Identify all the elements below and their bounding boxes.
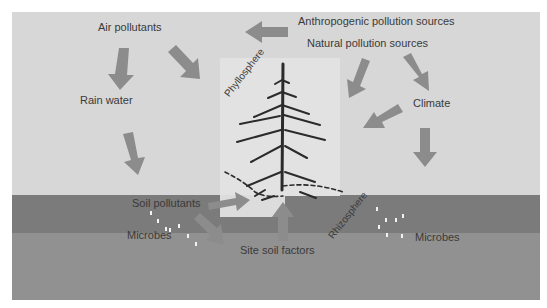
label-microbes-left: Microbes (127, 229, 172, 241)
arrow-climate-to-tree-icon (363, 104, 403, 128)
label-site-soil-factors: Site soil factors (240, 244, 315, 256)
tree-sketch-icon (225, 64, 343, 200)
label-natural-sources: Natural pollution sources (307, 37, 428, 49)
label-microbes-right: Microbes (415, 231, 460, 243)
label-anthropogenic-sources: Anthropogenic pollution sources (298, 15, 455, 27)
arrow-natural-to-tree-icon (347, 58, 370, 98)
arrow-soil-to-subsoil-icon (194, 213, 224, 245)
label-soil-pollutants: Soil pollutants (132, 197, 201, 209)
arrow-site-soil-up-icon (272, 202, 294, 241)
arrow-rain-to-soil-icon (123, 132, 145, 175)
arrow-natural-to-climate-icon (403, 53, 429, 91)
arrow-anthropogenic-icon (245, 21, 288, 43)
arrow-air-to-tree-icon (168, 45, 200, 79)
arrows-and-tree (0, 0, 547, 308)
label-rain-water: Rain water (80, 94, 133, 106)
arrow-air-to-rain-icon (108, 48, 134, 90)
arrow-soil-to-roots-icon (208, 192, 250, 211)
label-air-pollutants: Air pollutants (98, 21, 162, 33)
label-climate: Climate (413, 97, 450, 109)
arrow-climate-down-icon (413, 128, 437, 167)
